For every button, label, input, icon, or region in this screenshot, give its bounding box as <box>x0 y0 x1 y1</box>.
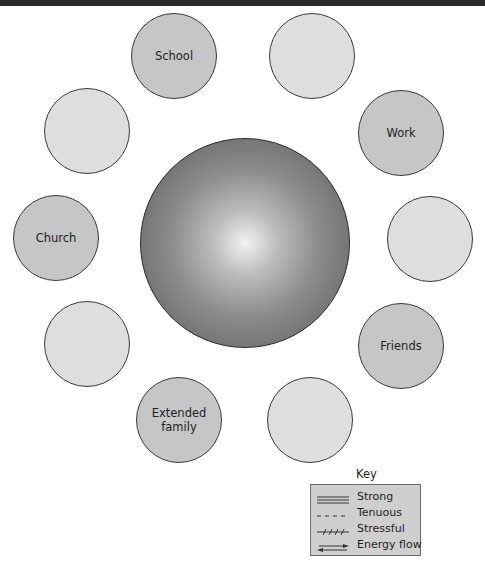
key-label-tenuous: Tenuous <box>357 506 402 519</box>
energy-flow-arrow-icon <box>317 539 349 551</box>
key-row-energy-flow: Energy flow <box>311 536 422 553</box>
key-label-stressful: Stressful <box>357 522 405 535</box>
center-family-circle <box>140 138 350 348</box>
node-school: School <box>131 13 217 99</box>
node-right-empty <box>387 196 473 282</box>
node-label: Work <box>386 126 415 140</box>
node-label: Church <box>36 231 77 245</box>
key-legend: Strong Tenuous Stressful <box>310 484 421 556</box>
strong-line-icon <box>317 491 349 503</box>
top-border-bar <box>0 0 485 6</box>
key-label-strong: Strong <box>357 490 393 503</box>
node-bottom-right-empty <box>267 377 353 463</box>
node-friends: Friends <box>358 303 444 389</box>
key-row-strong: Strong <box>311 488 422 505</box>
node-label: Friends <box>380 339 421 353</box>
node-top-right-empty <box>269 13 355 99</box>
key-row-stressful: Stressful <box>311 520 422 537</box>
tenuous-line-icon <box>317 507 349 519</box>
node-church: Church <box>13 195 99 281</box>
node-work: Work <box>358 90 444 176</box>
key-title: Key <box>356 467 377 481</box>
key-row-tenuous: Tenuous <box>311 504 422 521</box>
node-extended-family: Extended family <box>136 377 222 463</box>
node-upper-left-empty <box>44 88 130 174</box>
node-lower-left-empty <box>44 301 130 387</box>
node-label: Extended family <box>149 406 209 434</box>
key-label-energy-flow: Energy flow <box>357 538 422 551</box>
node-label: School <box>155 49 193 63</box>
stressful-line-icon <box>317 523 349 535</box>
